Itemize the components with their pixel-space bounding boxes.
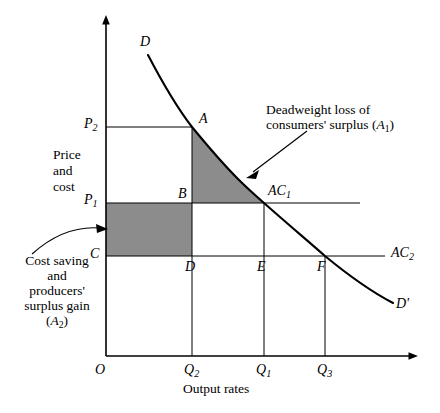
x-axis-title: Output rates — [183, 381, 249, 396]
annotation-cost-saving-line1: Cost saving — [8, 253, 106, 268]
quantity-tick-q1-base: Q — [256, 362, 266, 377]
point-label-e: E — [257, 259, 266, 275]
origin-label: O — [95, 362, 105, 378]
annotation-deadweight-line2-base: A — [376, 117, 384, 132]
demand-curve-label-start: D — [140, 34, 150, 50]
price-tick-p1-base: P — [84, 192, 93, 207]
deadweight-arrow-head — [246, 170, 259, 179]
deadweight-arrow-shaft — [253, 131, 307, 172]
curve-label-ac1-sub: 1 — [286, 189, 291, 200]
quantity-tick-q2-sub: 2 — [194, 368, 199, 379]
price-tick-p2-base: P — [84, 116, 93, 131]
point-label-a: A — [199, 111, 208, 127]
diagram-canvas — [0, 0, 440, 413]
curve-label-ac2-sub: 2 — [409, 251, 414, 262]
economics-diagram: Price and cost Output rates O P2 P1 C Q2… — [0, 0, 440, 413]
point-label-d: D — [185, 259, 195, 275]
annotation-cost-saving-line5-close: ) — [64, 313, 69, 328]
curve-label-ac1: AC1 — [268, 183, 291, 200]
demand-curve-label-end: D' — [396, 296, 409, 312]
quantity-tick-q2: Q2 — [184, 362, 199, 379]
annotation-cost-saving-line3: producers' — [8, 283, 106, 298]
annotation-deadweight-line2: consumers' surplus (A1) — [266, 117, 394, 135]
curve-label-ac1-base: AC — [268, 183, 286, 198]
quantity-tick-q3-base: Q — [317, 362, 327, 377]
y-axis-title: Price and cost — [53, 147, 81, 195]
price-tick-p2: P2 — [84, 116, 98, 133]
annotation-cost-saving-line5-base: A — [50, 313, 58, 328]
y-axis-arrowhead — [102, 15, 110, 25]
quantity-tick-q3: Q3 — [317, 362, 332, 379]
annotation-cost-saving-line2: and — [8, 268, 106, 283]
annotation-cost-saving-line5: (A2) — [8, 313, 106, 331]
quantity-tick-q2-base: Q — [184, 362, 194, 377]
annotation-cost-saving-line4: surplus gain — [8, 298, 106, 313]
annotation-cost-saving: Cost saving and producers' surplus gain … — [8, 253, 106, 331]
price-tick-p2-sub: 2 — [93, 122, 98, 133]
y-axis-title-line3: cost — [53, 179, 81, 195]
shaded-region-a2-producers-surplus — [106, 203, 192, 256]
annotation-deadweight-line2-close: ) — [390, 117, 395, 132]
annotation-deadweight-loss: Deadweight loss of consumers' surplus (A… — [266, 102, 394, 135]
curve-label-ac2: AC2 — [391, 245, 414, 262]
point-label-f: F — [317, 259, 326, 275]
quantity-tick-q1: Q1 — [256, 362, 271, 379]
quantity-tick-q1-sub: 1 — [266, 368, 271, 379]
price-tick-p1: P1 — [84, 192, 98, 209]
curve-label-ac2-base: AC — [391, 245, 409, 260]
point-label-b: B — [178, 186, 187, 202]
annotation-deadweight-line1: Deadweight loss of — [266, 102, 394, 117]
price-tick-p1-sub: 1 — [93, 198, 98, 209]
annotation-deadweight-line2-text: consumers' surplus ( — [266, 117, 376, 132]
y-axis-title-line2: and — [53, 163, 81, 179]
x-axis-arrowhead — [409, 352, 419, 360]
y-axis-title-line1: Price — [53, 147, 81, 163]
quantity-tick-q3-sub: 3 — [327, 368, 332, 379]
